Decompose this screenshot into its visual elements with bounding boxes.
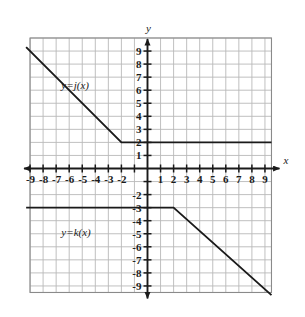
x-tick-label: 2 [171, 173, 177, 185]
curve-label: y=k(x) [60, 226, 91, 239]
y-tick-label: 7 [136, 71, 142, 83]
y-tick-label: 8 [136, 58, 142, 70]
x-tick-label: 8 [249, 173, 255, 185]
x-axis-label: x [282, 154, 288, 166]
y-tick-label: -6 [132, 241, 142, 253]
y-tick-label: -8 [132, 267, 142, 279]
y-tick-label: -2 [132, 189, 142, 201]
y-tick-label: -4 [132, 215, 142, 227]
x-tick-label: -4 [91, 173, 101, 185]
y-tick-label: -7 [132, 254, 142, 266]
x-tick-label: -5 [78, 173, 88, 185]
x-tick-label: -3 [104, 173, 114, 185]
x-tick-label: -6 [65, 173, 75, 185]
x-tick-label: 6 [223, 173, 229, 185]
x-tick-label: 4 [197, 173, 203, 185]
x-tick-label: -8 [39, 173, 49, 185]
x-tick-label: 1 [158, 173, 164, 185]
y-tick-label: 4 [136, 110, 142, 122]
x-tick-label: -2 [117, 173, 127, 185]
y-tick-label: -9 [132, 280, 142, 292]
x-tick-label: 9 [262, 173, 268, 185]
graph-canvas: -9-8-7-6-5-4-3-2123456789987654321-2-3-4… [0, 0, 305, 317]
curve-label: y=j(x) [60, 79, 89, 92]
x-tick-label: 5 [210, 173, 216, 185]
y-tick-label: 1 [136, 149, 142, 161]
y-axis-label: y [145, 22, 151, 34]
x-tick-label: 7 [236, 173, 242, 185]
coordinate-plane-figure: -9-8-7-6-5-4-3-2123456789987654321-2-3-4… [0, 0, 305, 317]
y-tick-label: 5 [136, 97, 142, 109]
y-tick-label: 9 [136, 45, 142, 57]
x-tick-label: -9 [26, 173, 36, 185]
y-tick-label: -5 [132, 228, 142, 240]
canvas-background [0, 0, 305, 317]
x-tick-label: 3 [184, 173, 190, 185]
x-tick-label: -7 [52, 173, 62, 185]
y-tick-label: 3 [136, 123, 142, 135]
y-tick-label: 6 [136, 84, 142, 96]
